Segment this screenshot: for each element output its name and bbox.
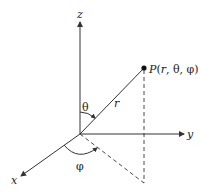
point-p-label: P(r, θ, φ) (148, 63, 199, 76)
phi-label: φ (76, 160, 84, 173)
phi-arc (64, 145, 97, 154)
spherical-coordinates-diagram: z y x r P(r, θ, φ) P(r, θ, φ) θ φ (0, 0, 200, 195)
y-axis-label: y (186, 128, 194, 141)
projection-xy-dashed (80, 134, 144, 183)
radius-label: r (114, 97, 120, 110)
theta-label: θ (82, 101, 89, 114)
radius-line (80, 68, 144, 134)
x-axis-label: x (11, 174, 18, 187)
point-p (141, 65, 146, 70)
x-axis (21, 134, 80, 176)
z-axis-label: z (76, 8, 83, 21)
